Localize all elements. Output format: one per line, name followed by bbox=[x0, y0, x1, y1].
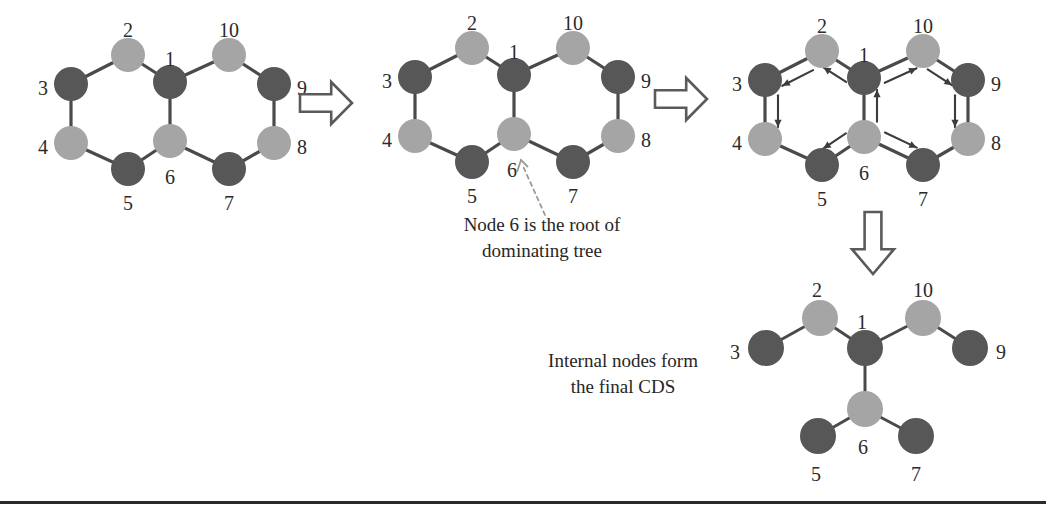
node-6[interactable] bbox=[497, 117, 531, 151]
figure-canvas: 1234567891012345678910123456789101231096… bbox=[0, 0, 1046, 510]
node-4[interactable] bbox=[398, 119, 432, 153]
node-label-4: 4 bbox=[38, 136, 48, 158]
node-label-3: 3 bbox=[38, 77, 48, 99]
node-label-10: 10 bbox=[563, 12, 583, 34]
node-label-7: 7 bbox=[224, 192, 234, 214]
node-6[interactable] bbox=[847, 391, 883, 427]
node-label-2: 2 bbox=[123, 19, 133, 41]
node-label-1: 1 bbox=[509, 41, 519, 63]
node-1[interactable] bbox=[497, 58, 531, 92]
node-10[interactable] bbox=[212, 38, 246, 72]
node-label-2: 2 bbox=[812, 279, 822, 301]
node-label-5: 5 bbox=[123, 192, 133, 214]
node-5[interactable] bbox=[111, 152, 145, 186]
node-7[interactable] bbox=[212, 152, 246, 186]
node-label-8: 8 bbox=[297, 136, 307, 158]
node-9[interactable] bbox=[257, 67, 291, 101]
rooted-graph: 12345678910 bbox=[382, 12, 651, 207]
node-6[interactable] bbox=[153, 124, 187, 158]
node-label-6: 6 bbox=[507, 159, 517, 181]
node-label-10: 10 bbox=[913, 279, 933, 301]
node-label-6: 6 bbox=[165, 166, 175, 188]
node-9[interactable] bbox=[951, 63, 985, 97]
node-label-7: 7 bbox=[568, 185, 578, 207]
node-9[interactable] bbox=[601, 60, 635, 94]
node-label-1: 1 bbox=[165, 48, 175, 70]
node-2[interactable] bbox=[802, 300, 838, 336]
node-label-8: 8 bbox=[641, 129, 651, 151]
node-5[interactable] bbox=[455, 145, 489, 179]
node-9[interactable] bbox=[952, 330, 988, 366]
node-10[interactable] bbox=[906, 34, 940, 68]
node-label-3: 3 bbox=[382, 70, 392, 92]
node-label-5: 5 bbox=[467, 185, 477, 207]
node-label-5: 5 bbox=[817, 188, 827, 210]
node-3[interactable] bbox=[54, 67, 88, 101]
node-5[interactable] bbox=[800, 418, 836, 454]
node-8[interactable] bbox=[257, 126, 291, 160]
node-label-4: 4 bbox=[732, 132, 742, 154]
cds-caption: Internal nodes form the final CDS bbox=[498, 348, 748, 399]
node-1[interactable] bbox=[847, 330, 883, 366]
node-7[interactable] bbox=[906, 148, 940, 182]
node-5[interactable] bbox=[805, 148, 839, 182]
node-label-1: 1 bbox=[859, 44, 869, 66]
stage-arrow-2-to-3 bbox=[655, 78, 707, 120]
node-1[interactable] bbox=[153, 65, 187, 99]
node-label-6: 6 bbox=[859, 162, 869, 184]
root-caption: Node 6 is the root of dominating tree bbox=[398, 212, 686, 263]
root-pointer-head bbox=[517, 160, 528, 172]
root-pointer-line bbox=[523, 166, 545, 215]
initial-graph: 12345678910 bbox=[38, 19, 307, 214]
node-label-3: 3 bbox=[732, 73, 742, 95]
node-label-7: 7 bbox=[918, 188, 928, 210]
node-label-9: 9 bbox=[996, 341, 1006, 363]
node-label-2: 2 bbox=[467, 12, 477, 34]
node-2[interactable] bbox=[111, 38, 145, 72]
node-label-9: 9 bbox=[991, 73, 1001, 95]
node-label-2: 2 bbox=[817, 15, 827, 37]
node-label-4: 4 bbox=[382, 129, 392, 151]
node-2[interactable] bbox=[805, 34, 839, 68]
node-4[interactable] bbox=[748, 122, 782, 156]
node-7[interactable] bbox=[556, 145, 590, 179]
node-4[interactable] bbox=[54, 126, 88, 160]
footer-rule bbox=[0, 501, 1046, 504]
node-7[interactable] bbox=[898, 418, 934, 454]
node-3[interactable] bbox=[748, 330, 784, 366]
node-label-6: 6 bbox=[858, 436, 868, 458]
stage-arrow-1-to-2 bbox=[300, 82, 352, 124]
node-2[interactable] bbox=[455, 31, 489, 65]
node-label-8: 8 bbox=[991, 132, 1001, 154]
node-8[interactable] bbox=[601, 119, 635, 153]
final-cds-tree: 123109657 bbox=[730, 279, 1006, 485]
stage-arrow-3-to-4 bbox=[852, 212, 894, 274]
node-3[interactable] bbox=[748, 63, 782, 97]
node-label-1: 1 bbox=[857, 311, 867, 333]
node-label-5: 5 bbox=[811, 463, 821, 485]
node-label-10: 10 bbox=[913, 15, 933, 37]
node-10[interactable] bbox=[905, 300, 941, 336]
node-label-7: 7 bbox=[911, 463, 921, 485]
node-6[interactable] bbox=[847, 120, 881, 154]
node-8[interactable] bbox=[951, 122, 985, 156]
root-pointer bbox=[517, 160, 545, 215]
node-3[interactable] bbox=[398, 60, 432, 94]
node-label-10: 10 bbox=[219, 19, 239, 41]
dominating-tree-graph: 12345678910 bbox=[732, 15, 1001, 210]
node-10[interactable] bbox=[556, 31, 590, 65]
node-1[interactable] bbox=[847, 61, 881, 95]
node-label-9: 9 bbox=[641, 70, 651, 92]
